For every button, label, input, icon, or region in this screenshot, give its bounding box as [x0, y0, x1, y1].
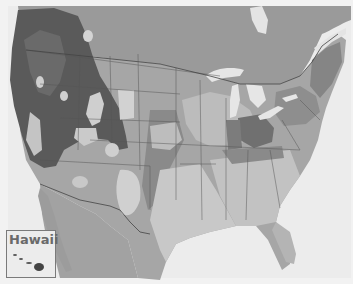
zone-light-wy — [60, 91, 68, 101]
island-oahu — [19, 258, 23, 260]
zone-light-idaho — [36, 76, 44, 88]
island-kauai — [13, 254, 17, 256]
hawaii-inset: Hawaii — [6, 230, 56, 278]
zone-light-montana — [83, 30, 93, 42]
zone-light-colorado — [118, 90, 134, 120]
zone-dark-indiana — [226, 120, 242, 150]
hawaii-islands — [7, 231, 55, 277]
island-molokai-maui — [26, 262, 32, 264]
zone-light-4corners — [105, 143, 119, 157]
zone-light-az — [72, 176, 88, 188]
island-big-island — [34, 263, 44, 271]
